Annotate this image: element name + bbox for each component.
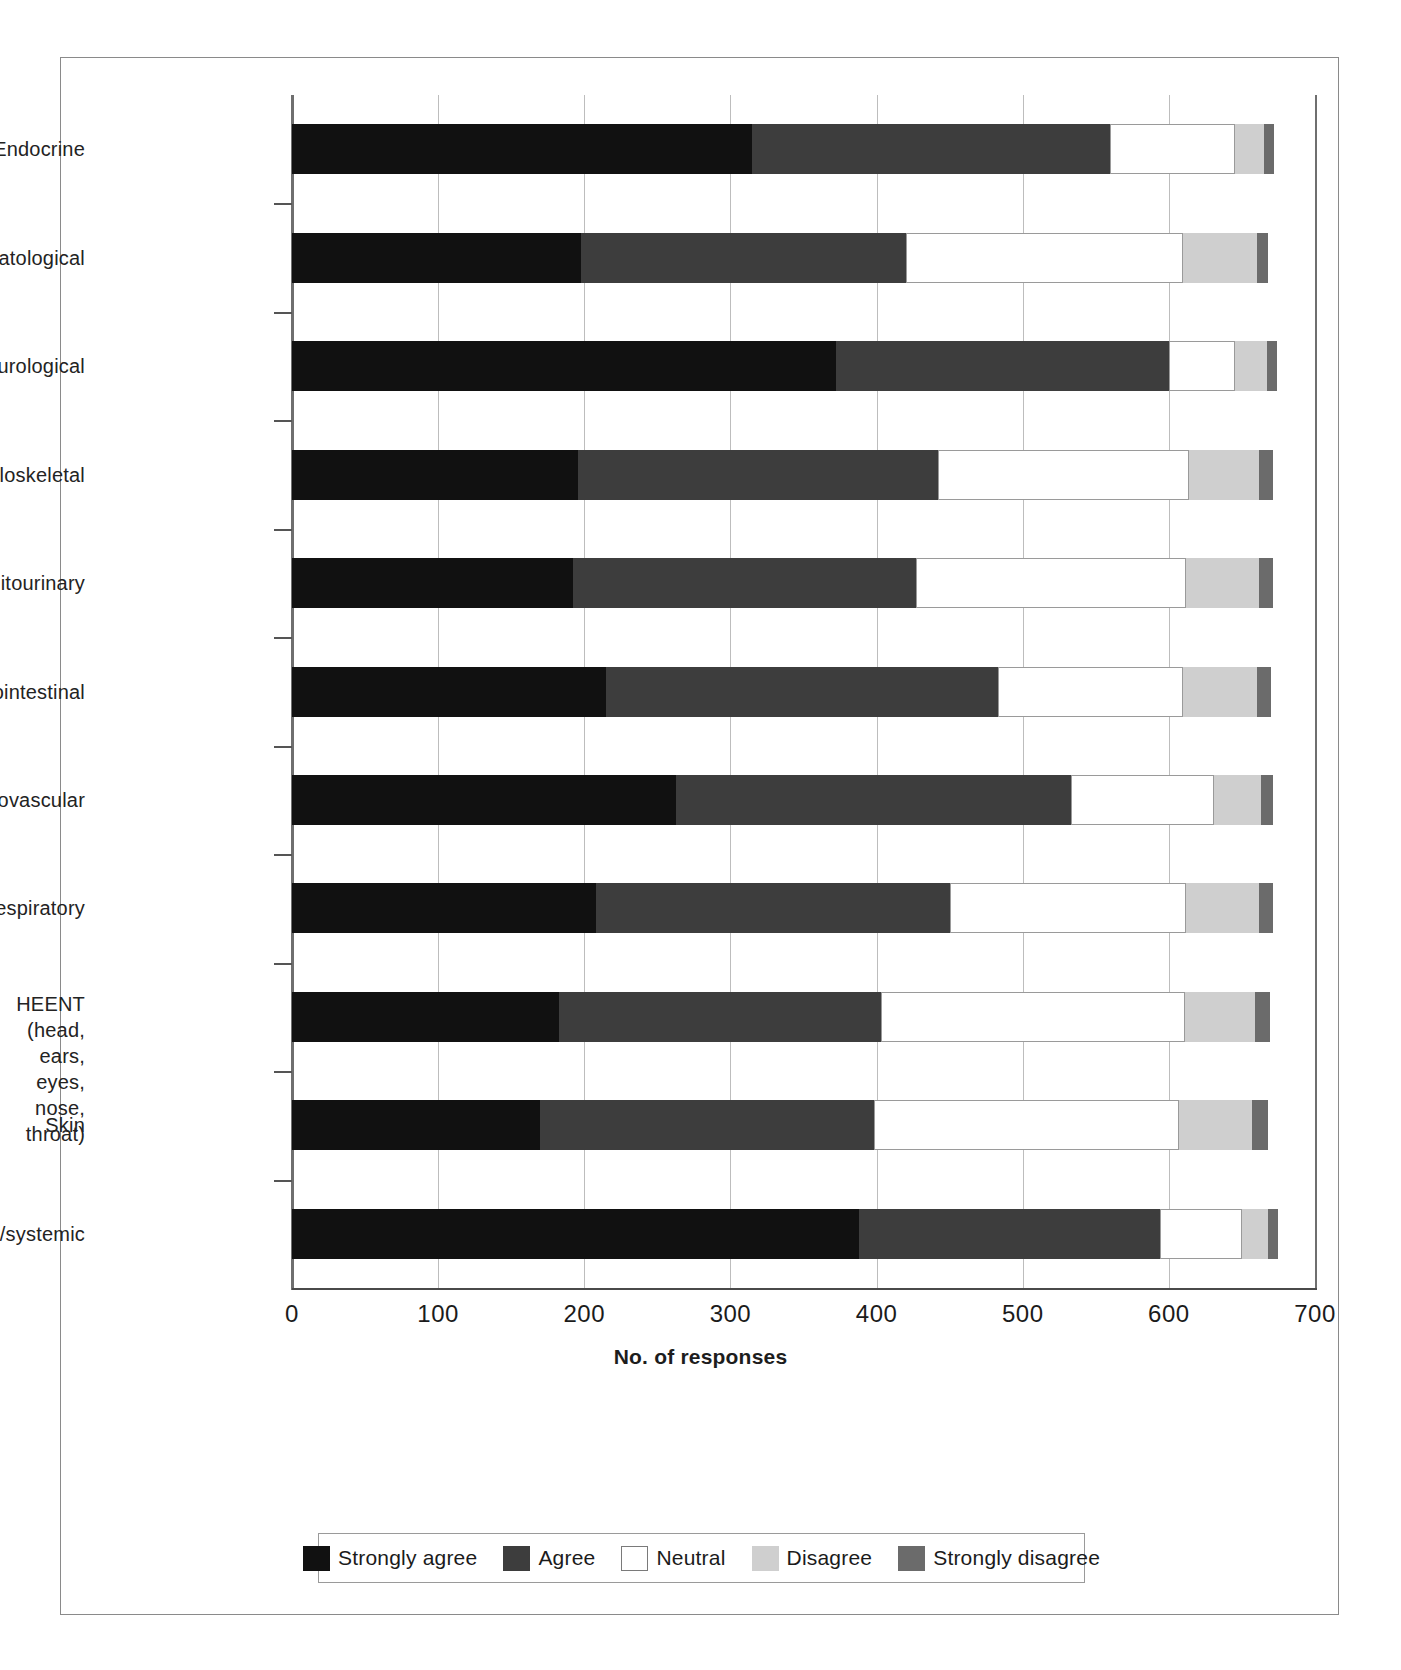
- bar-segment-nu: [1071, 775, 1214, 825]
- legend-label: Agree: [538, 1546, 595, 1570]
- y-axis-tick-mark: [274, 746, 292, 748]
- bar-segment-sa: [292, 558, 573, 608]
- figure-page: 0100200300400500600700EndocrineHematolog…: [0, 0, 1401, 1670]
- y-tick-label: Neurological: [0, 353, 85, 379]
- legend-label: Strongly agree: [338, 1546, 477, 1570]
- stacked-bar: [292, 775, 1273, 825]
- bar-segment-sa: [292, 775, 676, 825]
- stacked-bar: [292, 233, 1268, 283]
- y-axis-tick-mark: [274, 312, 292, 314]
- plot-area: [292, 95, 1315, 1288]
- bar-segment-sd: [1264, 124, 1274, 174]
- bar-row: [292, 124, 1315, 174]
- y-tick-label: Hematological: [0, 245, 85, 271]
- y-axis-tick-mark: [274, 854, 292, 856]
- bar-segment-ag: [606, 667, 998, 717]
- bar-segment-sa: [292, 883, 596, 933]
- x-tick-label-200: 200: [564, 1300, 606, 1328]
- bar-row: [292, 775, 1315, 825]
- legend-item[interactable]: Strongly disagree: [898, 1546, 1100, 1571]
- legend-item[interactable]: Neutral: [621, 1546, 725, 1571]
- legend-item[interactable]: Agree: [503, 1546, 595, 1571]
- bar-segment-sa: [292, 992, 559, 1042]
- chart-legend: Strongly agreeAgreeNeutralDisagreeStrong…: [318, 1533, 1085, 1583]
- bar-segment-di: [1242, 1209, 1268, 1259]
- y-axis-tick-mark: [274, 963, 292, 965]
- bar-segment-nu: [874, 1100, 1179, 1150]
- y-axis-tick-mark: [274, 637, 292, 639]
- stacked-bar: [292, 883, 1273, 933]
- y-axis-tick-mark: [274, 529, 292, 531]
- y-tick-label: Genitourinary: [0, 570, 85, 596]
- bar-segment-sa: [292, 124, 752, 174]
- bar-segment-di: [1183, 667, 1256, 717]
- y-axis-tick-mark: [274, 95, 292, 97]
- x-tick-label-400: 400: [856, 1300, 898, 1328]
- bar-segment-di: [1214, 775, 1261, 825]
- y-tick-label: Cardiovascular: [0, 787, 85, 813]
- stacked-bar: [292, 558, 1273, 608]
- legend-label: Strongly disagree: [933, 1546, 1100, 1570]
- y-tick-label: Musculoskeletal: [0, 462, 85, 488]
- bar-segment-nu: [938, 450, 1189, 500]
- bar-segment-ag: [581, 233, 905, 283]
- bar-segment-nu: [906, 233, 1184, 283]
- y-axis-tick-mark: [274, 203, 292, 205]
- bar-segment-di: [1185, 992, 1255, 1042]
- bar-segment-nu: [998, 667, 1184, 717]
- bar-segment-sd: [1259, 558, 1272, 608]
- y-axis-tick-mark: [274, 1071, 292, 1073]
- y-axis-tick-mark: [274, 420, 292, 422]
- bar-segment-sd: [1267, 341, 1277, 391]
- stacked-bar: [292, 124, 1274, 174]
- y-tick-label: General/systemic: [0, 1221, 85, 1247]
- bar-segment-nu: [881, 992, 1185, 1042]
- bar-segment-sd: [1255, 992, 1270, 1042]
- bar-segment-sa: [292, 1100, 540, 1150]
- bar-segment-sd: [1268, 1209, 1278, 1259]
- y-axis-tick-mark: [274, 1180, 292, 1182]
- bar-segment-ag: [859, 1209, 1160, 1259]
- bar-segment-nu: [1160, 1209, 1242, 1259]
- stacked-bar: [292, 341, 1277, 391]
- stacked-bar: [292, 1209, 1278, 1259]
- bar-segment-sd: [1257, 233, 1269, 283]
- legend-swatch-nu-icon: [621, 1546, 648, 1571]
- bar-segment-sd: [1259, 450, 1272, 500]
- bar-segment-sd: [1259, 883, 1272, 933]
- bar-row: [292, 992, 1315, 1042]
- bar-segment-ag: [578, 450, 938, 500]
- stacked-bar: [292, 1100, 1268, 1150]
- bar-segment-ag: [559, 992, 881, 1042]
- bar-segment-ag: [540, 1100, 873, 1150]
- x-tick-label-600: 600: [1148, 1300, 1190, 1328]
- bar-row: [292, 450, 1315, 500]
- bar-segment-di: [1235, 124, 1264, 174]
- bar-row: [292, 341, 1315, 391]
- bar-segment-sa: [292, 233, 581, 283]
- y-tick-label: Endocrine: [0, 136, 85, 162]
- bar-row: [292, 1209, 1315, 1259]
- legend-item[interactable]: Strongly agree: [303, 1546, 477, 1571]
- legend-swatch-ag-icon: [503, 1546, 530, 1571]
- bar-segment-di: [1186, 883, 1259, 933]
- bar-row: [292, 558, 1315, 608]
- bar-segment-ag: [573, 558, 916, 608]
- bar-segment-sd: [1257, 667, 1272, 717]
- legend-item[interactable]: Disagree: [752, 1546, 873, 1571]
- bar-segment-nu: [1110, 124, 1234, 174]
- bar-segment-ag: [752, 124, 1110, 174]
- legend-swatch-di-icon: [752, 1546, 779, 1571]
- bar-segment-ag: [596, 883, 950, 933]
- bar-segment-nu: [950, 883, 1187, 933]
- x-tick-label-300: 300: [710, 1300, 752, 1328]
- legend-swatch-sd-icon: [898, 1546, 925, 1571]
- bar-segment-di: [1235, 341, 1267, 391]
- bar-segment-nu: [916, 558, 1186, 608]
- bar-segment-ag: [836, 341, 1169, 391]
- gridline-700: [1315, 95, 1317, 1288]
- legend-label: Disagree: [787, 1546, 873, 1570]
- x-tick-label-100: 100: [417, 1300, 459, 1328]
- x-tick-label-500: 500: [1002, 1300, 1044, 1328]
- x-tick-label-0: 0: [285, 1300, 299, 1328]
